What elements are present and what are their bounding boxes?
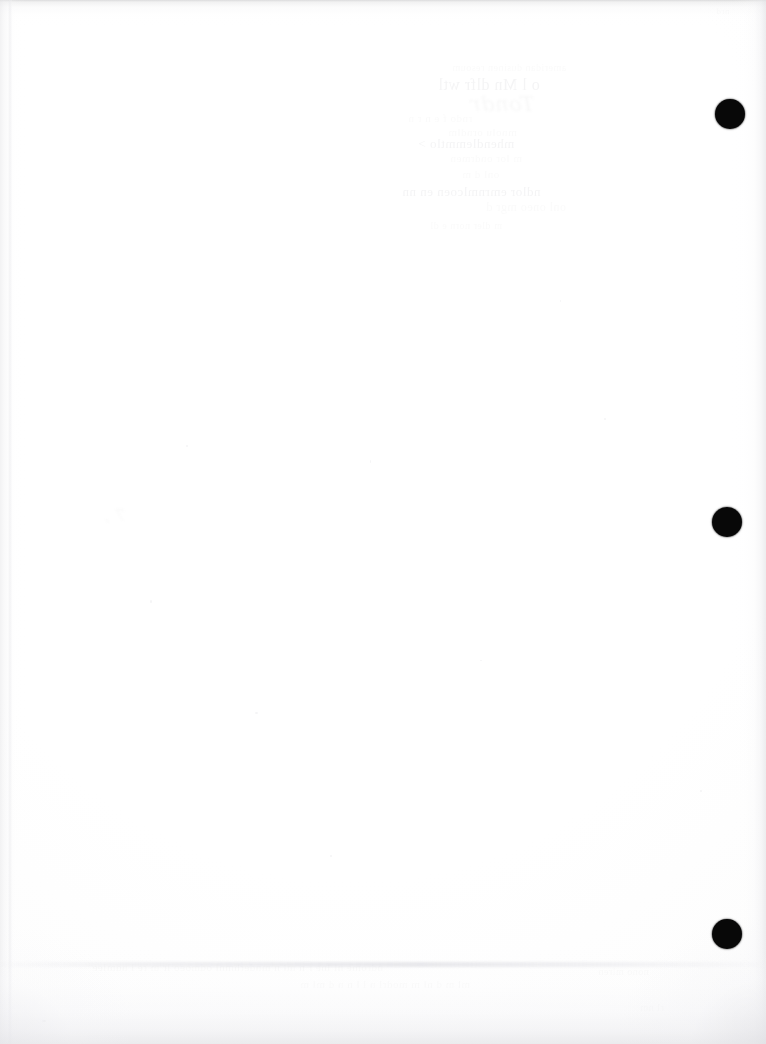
top-edge-shadow xyxy=(0,0,766,26)
paper-speckle xyxy=(700,790,702,792)
scanned-page: ameridan dusinen resoum o l Mn dlfr wtl … xyxy=(0,0,766,1044)
paper-speckle xyxy=(186,445,188,447)
bottom-right-corner-shadow xyxy=(616,914,766,1044)
paper-speckle xyxy=(560,300,561,302)
paper-speckle xyxy=(370,460,371,463)
left-edge-shadow xyxy=(0,0,26,1044)
bottom-punch-hole xyxy=(712,919,742,949)
middle-punch-hole xyxy=(712,507,742,537)
paper-speckle xyxy=(604,418,606,420)
bottom-left-corner-shadow xyxy=(0,924,140,1044)
paper-speckle xyxy=(255,712,258,714)
paper-speckle xyxy=(330,855,332,857)
left-edge-crease xyxy=(8,0,12,1044)
paper-speckle xyxy=(150,600,152,603)
top-punch-hole xyxy=(715,99,745,129)
paper-speckle xyxy=(480,660,482,661)
paper-surface xyxy=(0,0,766,1044)
